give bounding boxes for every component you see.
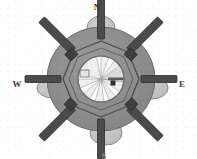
center-marker <box>111 81 116 86</box>
figure-root: N W E S <box>0 0 197 159</box>
spoke-w <box>141 76 177 83</box>
compass-label-north: N <box>94 3 101 12</box>
hub-left-feature <box>80 70 89 77</box>
compass-label-east: E <box>179 80 185 89</box>
hub-bar-stub <box>108 78 126 81</box>
compass-label-west: W <box>12 80 21 89</box>
compass-label-south: S <box>101 152 106 159</box>
circular-plan-diagram <box>0 0 197 159</box>
spoke-e <box>25 76 61 83</box>
